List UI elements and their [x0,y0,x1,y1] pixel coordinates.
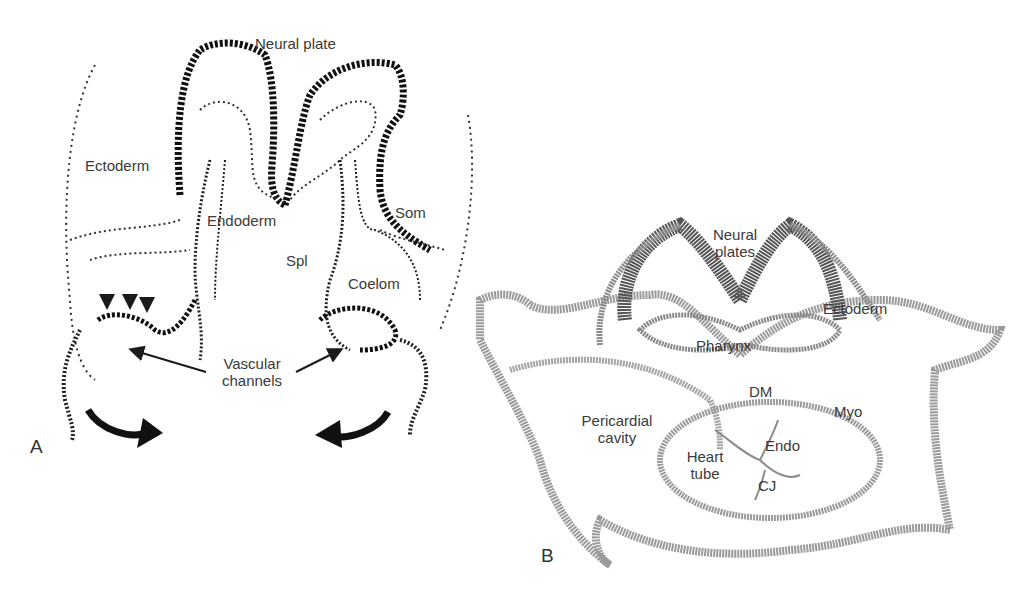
label-dm: DM [749,383,772,400]
label-ectoderm-b: Ectoderm [823,300,887,317]
panel-letter-a: A [30,436,43,458]
label-neural-line1: Neural [700,226,770,243]
label-vascular-line2: channels [212,372,292,389]
panel-letter-b: B [541,545,554,567]
label-pericardial-line2: cavity [567,429,667,446]
label-pharynx: Pharynx [696,337,751,354]
label-spl: Spl [286,252,308,269]
label-neural-plates: Neural plates [700,226,770,260]
label-pericardial-cavity: Pericardial cavity [567,412,667,446]
label-ectoderm-a: Ectoderm [85,157,149,174]
label-heart-line1: Heart [680,448,730,465]
label-heart-tube: Heart tube [680,448,730,482]
label-myo: Myo [834,403,862,420]
label-neural-line2: plates [700,243,770,260]
label-som: Som [395,204,426,221]
label-coelom: Coelom [348,275,400,292]
label-pericardial-line1: Pericardial [567,412,667,429]
label-vascular-channels: Vascular channels [212,355,292,389]
label-endoderm: Endoderm [207,212,276,229]
label-heart-line2: tube [680,465,730,482]
label-neural-plate: Neural plate [255,35,336,52]
label-vascular-line1: Vascular [212,355,292,372]
panel-a-illustration [0,0,480,460]
label-endo: Endo [765,437,800,454]
label-cj: CJ [758,477,776,494]
